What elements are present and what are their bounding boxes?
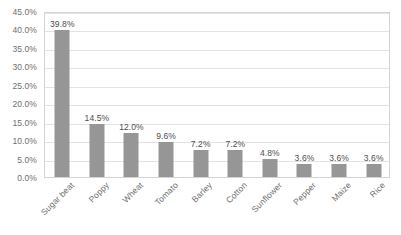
x-axis-category-label: Pepper xyxy=(291,180,318,207)
bar-slot: 39.8% xyxy=(45,13,80,177)
y-axis-tick-label: 30.0% xyxy=(12,63,37,72)
bar-value-label: 9.6% xyxy=(156,131,176,141)
bar-slot: 3.6% xyxy=(322,13,357,177)
y-axis-tick-label: 40.0% xyxy=(12,26,37,35)
bar[interactable] xyxy=(332,164,347,177)
bar-value-label: 4.8% xyxy=(260,148,280,158)
bar-slot: 3.6% xyxy=(287,13,322,177)
bar[interactable] xyxy=(193,150,208,177)
y-axis-tick-label: 0.0% xyxy=(17,174,37,183)
bar[interactable] xyxy=(55,30,70,177)
y-axis-tick-label: 20.0% xyxy=(12,100,37,109)
y-axis-tick-label: 5.0% xyxy=(17,155,37,164)
bar[interactable] xyxy=(262,159,277,177)
plot-area: 39.8%14.5%12.0%9.6%7.2%7.2%4.8%3.6%3.6%3… xyxy=(44,12,390,178)
y-axis-tick-label: 15.0% xyxy=(12,118,37,127)
x-axis-category-label: Sugar beat xyxy=(39,180,76,217)
bar-value-label: 39.8% xyxy=(50,19,75,29)
y-axis-tick-label: 45.0% xyxy=(12,8,37,17)
x-axis-category-label: Maize xyxy=(329,180,352,203)
x-axis: Sugar beatPoppyWheatTomatoBarleyCottonSu… xyxy=(44,178,390,235)
y-axis-tick-label: 35.0% xyxy=(12,44,37,53)
bar-slot: 9.6% xyxy=(149,13,184,177)
bar-value-label: 12.0% xyxy=(119,122,144,132)
bar[interactable] xyxy=(89,124,104,177)
x-axis-category-label: Wheat xyxy=(120,180,145,205)
bars-layer: 39.8%14.5%12.0%9.6%7.2%7.2%4.8%3.6%3.6%3… xyxy=(45,13,389,177)
bar[interactable] xyxy=(159,142,174,177)
bar[interactable] xyxy=(228,150,243,177)
bar-slot: 14.5% xyxy=(80,13,115,177)
y-axis-tick-label: 25.0% xyxy=(12,81,37,90)
x-axis-category-label: Tomato xyxy=(153,180,180,207)
bar-value-label: 14.5% xyxy=(85,113,110,123)
x-axis-category-label: Sunflower xyxy=(249,180,283,214)
bar-slot: 7.2% xyxy=(183,13,218,177)
x-axis-category-label: Barley xyxy=(190,180,215,205)
x-axis-category-label: Rice xyxy=(368,180,387,199)
bar-slot: 4.8% xyxy=(253,13,288,177)
bar-value-label: 7.2% xyxy=(191,139,211,149)
y-axis: 0.0%5.0%10.0%15.0%20.0%25.0%30.0%35.0%40… xyxy=(0,12,40,178)
y-axis-tick-label: 10.0% xyxy=(12,137,37,146)
bar-chart: 0.0%5.0%10.0%15.0%20.0%25.0%30.0%35.0%40… xyxy=(0,0,401,235)
bar-value-label: 3.6% xyxy=(364,153,384,163)
bar[interactable] xyxy=(124,133,139,177)
bar-value-label: 3.6% xyxy=(329,153,349,163)
bar-slot: 3.6% xyxy=(356,13,391,177)
x-axis-category-label: Cotton xyxy=(224,180,249,205)
x-axis-category-label: Poppy xyxy=(86,180,110,204)
bar-slot: 12.0% xyxy=(114,13,149,177)
bar[interactable] xyxy=(366,164,381,177)
bar-value-label: 7.2% xyxy=(225,139,245,149)
bar-value-label: 3.6% xyxy=(295,153,315,163)
bar-slot: 7.2% xyxy=(218,13,253,177)
bar[interactable] xyxy=(297,164,312,177)
